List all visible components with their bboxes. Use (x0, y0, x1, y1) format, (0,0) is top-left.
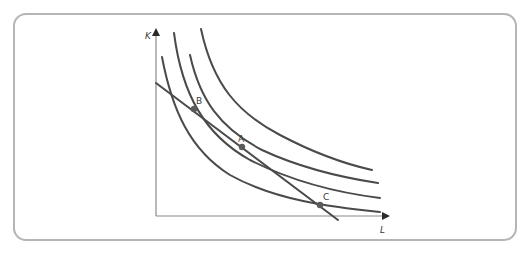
point-c-label: C (323, 192, 329, 202)
point-c (317, 202, 323, 208)
isocost-line (156, 83, 338, 220)
isoquant-diagram: K L B A C (0, 0, 532, 257)
point-a (239, 144, 245, 150)
point-a-label: A (238, 134, 245, 144)
point-b-label: B (196, 96, 202, 106)
x-axis-label: L (380, 225, 385, 235)
isoquants (162, 29, 380, 212)
point-b (191, 106, 197, 112)
y-axis-label: K (145, 31, 152, 41)
isoquant-4 (201, 29, 372, 170)
isoquant-1 (162, 57, 380, 212)
